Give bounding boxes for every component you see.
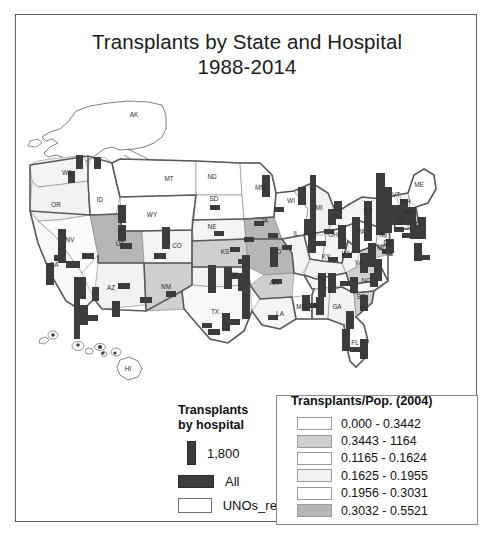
legend-class-range-label: 0.3443 - 1164 bbox=[341, 434, 417, 448]
state-mt bbox=[112, 159, 196, 197]
state-mn bbox=[240, 163, 276, 219]
legend-class-range-label: 0.3032 - 0.5521 bbox=[341, 504, 428, 518]
state-label-mt: MT bbox=[164, 175, 173, 182]
state-nd bbox=[196, 161, 242, 195]
legend-class-swatch-icon bbox=[297, 469, 332, 482]
legend-class-row: 0.1956 - 0.3031 bbox=[297, 485, 428, 502]
us-map-svg: AK HI bbox=[16, 77, 478, 382]
state-label-ks: KS bbox=[221, 248, 230, 255]
legend-class-row: 0.3443 - 1164 bbox=[297, 432, 428, 449]
legend-bar-value-label: 1,800 bbox=[207, 446, 240, 461]
state-label-mo: MO bbox=[271, 248, 281, 255]
state-label-in: IN bbox=[310, 231, 317, 238]
state-label-il: IL bbox=[293, 230, 299, 237]
legend-class-swatch-icon bbox=[297, 452, 332, 465]
legend-class-row: 0.3032 - 0.5521 bbox=[297, 502, 428, 519]
state-label-ny: NY bbox=[364, 207, 374, 214]
state-label-ms: MS bbox=[296, 303, 306, 310]
state-label-az: AZ bbox=[107, 284, 115, 291]
page-title: Transplants by State and Hospital 1988-2… bbox=[16, 29, 478, 79]
legend-class-swatch-icon bbox=[297, 435, 332, 448]
state-label-or: OR bbox=[51, 201, 61, 208]
legend-choropleth-heading: Transplants/Pop. (2004) bbox=[291, 394, 432, 409]
state-label-wi: WI bbox=[287, 197, 295, 204]
state-label-tx: TX bbox=[211, 308, 220, 315]
legend-class-row: 0.000 - 0.3442 bbox=[297, 415, 428, 432]
legend-class-range-label: 0.000 - 0.3442 bbox=[341, 417, 421, 431]
legend-all-label: All bbox=[225, 474, 239, 489]
legend-choropleth-rows: 0.000 - 0.34420.3443 - 11640.1165 - 0.16… bbox=[297, 415, 428, 519]
state-label-nm: NM bbox=[161, 283, 171, 290]
state-label-ia: IA bbox=[262, 217, 269, 224]
state-label-ma: MA bbox=[403, 209, 413, 216]
state-label-ut: UT bbox=[116, 240, 125, 247]
legend-transplants-per-pop: Transplants/Pop. (2004) 0.000 - 0.34420.… bbox=[276, 395, 478, 525]
state-la bbox=[252, 297, 296, 329]
state-label-wv: WV bbox=[342, 250, 353, 257]
state-label-va: VA bbox=[355, 259, 364, 266]
state-label-wy: WY bbox=[147, 211, 158, 218]
state-label-nd: ND bbox=[207, 173, 217, 180]
state-label-nv: NV bbox=[66, 236, 76, 243]
state-label-co: CO bbox=[172, 242, 182, 249]
legend-class-range-label: 0.1625 - 0.1955 bbox=[341, 469, 428, 483]
state-label-ne: NE bbox=[208, 223, 217, 230]
all-swatch-icon bbox=[178, 475, 214, 488]
state-label-vt: VT bbox=[392, 191, 400, 198]
state-label-me: ME bbox=[414, 181, 424, 188]
svg-text:HI: HI bbox=[125, 365, 132, 372]
state-label-ok: OK bbox=[228, 271, 238, 278]
state-label-ri: RI bbox=[409, 218, 416, 225]
state-label-ct: CT bbox=[397, 217, 406, 224]
state-label-nc: NC bbox=[361, 277, 371, 284]
legend-class-range-label: 0.1165 - 0.1624 bbox=[341, 451, 427, 465]
figure-frame: Transplants by State and Hospital 1988-2… bbox=[15, 14, 477, 522]
figure-root: Transplants by State and Hospital 1988-2… bbox=[0, 0, 493, 540]
map-panel: AK HI bbox=[16, 77, 478, 382]
state-label-al: AL bbox=[313, 302, 321, 309]
state-label-la: LA bbox=[276, 310, 285, 317]
state-label-sc: SC bbox=[357, 293, 366, 300]
legend-class-swatch-icon bbox=[297, 487, 332, 500]
hawaii-inset: HI bbox=[39, 331, 142, 380]
unos-region-swatch-icon bbox=[178, 498, 212, 513]
state-label-fl: FL bbox=[351, 339, 359, 346]
legend-class-swatch-icon bbox=[297, 417, 332, 430]
state-wy bbox=[120, 195, 196, 231]
state-label-mn: MN bbox=[255, 184, 265, 191]
legend-class-range-label: 0.1956 - 0.3031 bbox=[341, 486, 428, 500]
state-label-wa: WA bbox=[62, 169, 73, 176]
state-label-ca: CA bbox=[50, 261, 60, 268]
state-me bbox=[408, 169, 436, 207]
state-label-ga: GA bbox=[332, 303, 342, 310]
state-label-ky: KY bbox=[322, 253, 331, 260]
state-label-oh: OH bbox=[328, 231, 338, 238]
state-ne bbox=[192, 219, 246, 241]
state-label-tn: TN bbox=[317, 275, 326, 282]
svg-text:AK: AK bbox=[130, 111, 139, 118]
state-label-md: MD bbox=[377, 244, 387, 251]
state-label-ar: AR bbox=[270, 279, 279, 286]
state-label-pa: PA bbox=[357, 228, 366, 235]
legend-class-swatch-icon bbox=[297, 504, 332, 517]
state-label-mi: MI bbox=[315, 204, 322, 211]
state-label-nj: NJ bbox=[379, 231, 387, 238]
bar-symbol-icon bbox=[187, 441, 196, 465]
state-label-nh: NH bbox=[401, 198, 411, 205]
legend-class-row: 0.1165 - 0.1624 bbox=[297, 450, 428, 467]
legend-class-row: 0.1625 - 0.1955 bbox=[297, 467, 428, 484]
state-label-id: ID bbox=[97, 196, 104, 203]
title-line-1: Transplants by State and Hospital bbox=[16, 29, 478, 54]
state-label-sd: SD bbox=[210, 195, 219, 202]
title-line-2: 1988-2014 bbox=[16, 54, 478, 79]
